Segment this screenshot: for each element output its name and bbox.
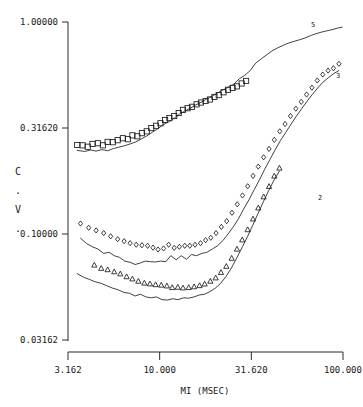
data-point-diamond bbox=[305, 92, 309, 97]
data-point-diamond bbox=[262, 155, 266, 160]
data-point-triangle bbox=[170, 285, 175, 290]
y-axis-title-char: . bbox=[15, 185, 21, 196]
data-point-triangle bbox=[197, 283, 202, 288]
x-tick-label: 3.162 bbox=[54, 365, 81, 375]
data-point-triangle bbox=[164, 283, 169, 288]
data-point-diamond bbox=[256, 164, 260, 169]
y-axis-title-char: V bbox=[15, 204, 21, 215]
y-axis-title-char: C bbox=[15, 166, 21, 177]
data-point-triangle bbox=[208, 278, 213, 283]
data-point-diamond bbox=[321, 72, 325, 77]
x-tick-label: 31.620 bbox=[235, 365, 268, 375]
x-axis-title: MI (MSEC) bbox=[181, 386, 230, 396]
data-point-triangle bbox=[224, 264, 229, 269]
data-point-triangle bbox=[105, 267, 110, 272]
data-point-diamond bbox=[251, 173, 255, 178]
data-point-diamond bbox=[214, 230, 218, 235]
data-point-diamond bbox=[235, 202, 239, 207]
data-point-square bbox=[120, 136, 125, 141]
data-point-diamond bbox=[278, 129, 282, 134]
data-point-triangle bbox=[112, 269, 117, 274]
series-end-labels: 532 bbox=[311, 21, 340, 202]
data-point-triangle bbox=[180, 285, 185, 290]
series-label-2: 2 bbox=[318, 194, 322, 202]
data-point-triangle bbox=[130, 276, 135, 281]
series-label-3: 3 bbox=[336, 72, 340, 80]
data-point-triangle bbox=[202, 281, 207, 286]
y-axis-title: C.V. bbox=[15, 166, 21, 234]
y-tick-label: 0.10000 bbox=[20, 229, 58, 239]
chart-svg: 1.000000.316200.100000.03162 3.16210.000… bbox=[0, 0, 363, 407]
data-point-triangle bbox=[92, 262, 97, 267]
data-point-square bbox=[95, 141, 100, 146]
data-point-diamond bbox=[116, 237, 120, 242]
x-tick-label: 100.000 bbox=[324, 365, 362, 375]
data-point-diamond bbox=[331, 66, 335, 71]
y-axis-ticks bbox=[62, 22, 68, 340]
data-point-diamond bbox=[122, 239, 126, 244]
data-point-diamond bbox=[78, 221, 82, 226]
data-point-diamond bbox=[283, 121, 287, 126]
data-point-diamond bbox=[230, 210, 234, 215]
data-point-triangle bbox=[229, 255, 234, 260]
data-point-diamond bbox=[167, 242, 171, 247]
data-point-diamond bbox=[177, 244, 181, 249]
data-point-triangle bbox=[159, 282, 164, 287]
data-point-triangle bbox=[124, 274, 129, 279]
data-point-diamond bbox=[156, 247, 160, 252]
fitted-curves bbox=[77, 27, 342, 300]
data-point-triangle bbox=[234, 246, 239, 251]
data-point-triangle bbox=[191, 284, 196, 289]
data-point-triangle bbox=[272, 173, 277, 178]
data-point-diamond bbox=[109, 234, 113, 239]
data-point-square bbox=[110, 140, 115, 145]
data-point-diamond bbox=[134, 242, 138, 247]
data-point-diamond bbox=[326, 68, 330, 73]
fitted-curve-5 bbox=[77, 27, 342, 151]
data-point-triangle bbox=[153, 282, 158, 287]
data-point-diamond bbox=[288, 113, 292, 118]
data-point-triangle bbox=[277, 165, 282, 170]
data-point-triangle bbox=[213, 275, 218, 280]
data-point-diamond bbox=[87, 225, 91, 230]
data-point-triangle bbox=[175, 284, 180, 289]
data-point-triangle bbox=[256, 205, 261, 210]
data-point-diamond bbox=[219, 224, 223, 229]
data-point-triangle bbox=[99, 266, 104, 271]
data-point-diamond bbox=[209, 235, 213, 240]
x-axis-tick-labels: 3.16210.00031.620100.000 bbox=[54, 365, 362, 375]
data-point-triangle bbox=[142, 280, 147, 285]
data-point-square bbox=[115, 138, 120, 143]
data-point-diamond bbox=[183, 243, 187, 248]
data-point-diamond bbox=[225, 219, 229, 224]
data-point-square bbox=[80, 143, 85, 148]
data-point-diamond bbox=[272, 137, 276, 142]
data-point-diamond bbox=[102, 230, 106, 235]
x-axis-ticks bbox=[68, 352, 343, 360]
y-tick-label: 0.03162 bbox=[20, 335, 58, 345]
y-axis-title-char: . bbox=[15, 223, 21, 234]
data-point-square bbox=[75, 142, 80, 147]
data-point-diamond bbox=[246, 184, 250, 189]
fitted-curve-3 bbox=[81, 71, 339, 265]
data-point-triangle bbox=[245, 227, 250, 232]
data-point-diamond bbox=[337, 61, 341, 66]
data-point-diamond bbox=[204, 238, 208, 243]
series-label-5: 5 bbox=[311, 21, 315, 29]
data-point-diamond bbox=[140, 243, 144, 248]
x-tick-label: 10.000 bbox=[143, 365, 176, 375]
data-point-diamond bbox=[315, 78, 319, 83]
data-point-triangle bbox=[147, 281, 152, 286]
data-point-diamond bbox=[294, 106, 298, 111]
y-tick-label: 0.31620 bbox=[20, 123, 58, 133]
data-point-triangle bbox=[136, 278, 141, 283]
data-point-triangle bbox=[250, 216, 255, 221]
fitted-curve-2 bbox=[77, 171, 279, 300]
data-point-diamond bbox=[172, 245, 176, 250]
data-point-diamond bbox=[151, 245, 155, 250]
data-point-triangle bbox=[118, 271, 123, 276]
data-point-diamond bbox=[188, 243, 192, 248]
y-tick-label: 1.00000 bbox=[20, 17, 58, 27]
chart-figure: 1.000000.316200.100000.03162 3.16210.000… bbox=[0, 0, 363, 407]
data-point-triangle bbox=[218, 270, 223, 275]
